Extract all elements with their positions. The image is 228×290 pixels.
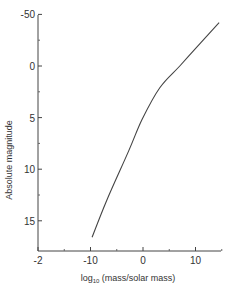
y-tick-label: 15 <box>24 216 36 227</box>
y-tick-label: 10 <box>24 164 36 175</box>
data-line <box>92 23 219 238</box>
x-tick-label: 0 <box>140 255 146 266</box>
y-tick-label: 5 <box>29 113 35 124</box>
y-tick-label: 0 <box>29 61 35 72</box>
y-tick-label: -50 <box>21 9 36 20</box>
chart: -50051015 -2-10010 Absolute magnitude lo… <box>0 0 228 290</box>
y-ticks: -50051015 <box>21 9 42 226</box>
x-tick-label: 10 <box>190 255 202 266</box>
x-tick-label: -10 <box>83 255 98 266</box>
x-ticks: -2-10010 <box>34 247 222 266</box>
x-axis-title: log10 (mass/solar mass) <box>81 273 176 284</box>
y-axis-title: Absolute magnitude <box>4 120 14 200</box>
x-tick-label: -2 <box>34 255 43 266</box>
